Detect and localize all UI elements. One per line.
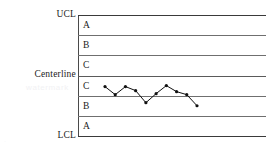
data-point [155,92,158,95]
corner-speck-artifact: · [4,138,6,144]
axis-label-lcl: LCL [57,130,76,140]
axis-label-centerline: Centerline [34,69,76,79]
watermark-text: watermark [26,83,69,92]
series-marker-group [103,84,198,107]
data-point [124,85,127,88]
data-point [175,90,178,93]
data-point [103,85,106,88]
data-point [165,84,168,87]
series-plot [78,15,266,136]
axis-label-ucl: UCL [56,9,76,19]
data-point [134,89,137,92]
plot-area: ABCCBA [78,15,266,136]
data-point [144,101,147,104]
series-line [105,86,197,106]
data-point [185,93,188,96]
lcl-line [78,136,266,137]
data-point [114,93,117,96]
data-point [195,104,198,107]
control-chart: UCL Centerline LCL watermark · ABCCBA [0,0,276,149]
